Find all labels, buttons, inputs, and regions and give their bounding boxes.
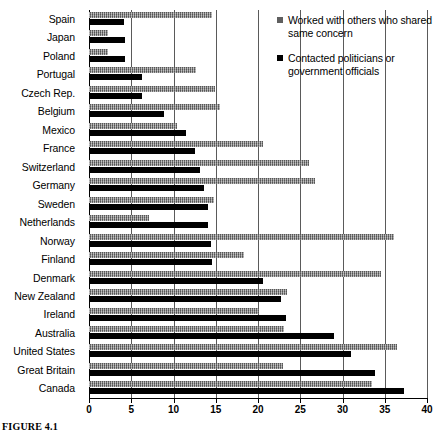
bar-contacted-politicians	[89, 388, 404, 394]
bar-contacted-politicians	[89, 222, 208, 228]
y-axis-label: Australia	[0, 324, 81, 342]
y-axis-label: Canada	[0, 379, 81, 397]
bar-contacted-politicians	[89, 148, 195, 154]
x-tick-mark	[131, 398, 132, 403]
square-marker-icon	[277, 17, 283, 23]
x-tick-label: 40	[421, 404, 432, 415]
x-tick-label: 25	[295, 404, 306, 415]
bar-row	[89, 158, 427, 176]
x-tick-label: 10	[168, 404, 179, 415]
figure-caption: FIGURE 4.1	[2, 421, 58, 432]
bar-contacted-politicians	[89, 351, 351, 357]
bar-contacted-politicians	[89, 93, 142, 99]
legend-label: Contacted politicians or government offi…	[288, 52, 442, 78]
bar-row	[89, 342, 427, 360]
legend-entry-contacted: Contacted politicians or government offi…	[277, 52, 442, 78]
legend-label: Worked with others who shared same conce…	[288, 14, 442, 40]
y-axis-label: Great Britain	[0, 361, 81, 379]
y-axis-label: Japan	[0, 28, 81, 46]
bar-contacted-politicians	[89, 315, 286, 321]
y-axis-label: Switzerland	[0, 158, 81, 176]
bar-contacted-politicians	[89, 167, 200, 173]
bar-contacted-politicians	[89, 130, 186, 136]
bar-worked-with-others	[89, 178, 315, 184]
bar-contacted-politicians	[89, 111, 164, 117]
bar-worked-with-others	[89, 363, 283, 369]
y-axis-label: Sweden	[0, 195, 81, 213]
y-axis-label: France	[0, 139, 81, 157]
bar-contacted-politicians	[89, 370, 375, 376]
bar-row	[89, 306, 427, 324]
bar-row	[89, 379, 427, 397]
bar-contacted-politicians	[89, 56, 125, 62]
bar-worked-with-others	[89, 67, 196, 73]
bar-worked-with-others	[89, 381, 372, 387]
y-axis-label: Finland	[0, 250, 81, 268]
bar-worked-with-others	[89, 252, 244, 258]
y-axis-label: United States	[0, 342, 81, 360]
y-axis-label: Mexico	[0, 121, 81, 139]
bar-worked-with-others	[89, 234, 394, 240]
x-tick-mark	[385, 398, 386, 403]
bar-worked-with-others	[89, 344, 397, 350]
x-tick-mark	[174, 398, 175, 403]
y-axis-label: Poland	[0, 47, 81, 65]
x-tick-label: 15	[210, 404, 221, 415]
bar-worked-with-others	[89, 86, 215, 92]
bar-row	[89, 176, 427, 194]
bar-contacted-politicians	[89, 19, 124, 25]
bar-worked-with-others	[89, 160, 309, 166]
bar-contacted-politicians	[89, 241, 211, 247]
x-tick-mark	[258, 398, 259, 403]
bar-worked-with-others	[89, 104, 220, 110]
bar-worked-with-others	[89, 289, 287, 295]
bar-row	[89, 213, 427, 231]
x-tick-mark	[343, 398, 344, 403]
bar-worked-with-others	[89, 215, 149, 221]
y-axis-label: Ireland	[0, 306, 81, 324]
y-axis-label: Norway	[0, 232, 81, 250]
bar-row	[89, 195, 427, 213]
bar-worked-with-others	[89, 326, 284, 332]
chart-legend: Worked with others who shared same conce…	[277, 14, 442, 90]
bar-row	[89, 324, 427, 342]
x-tick-label: 0	[86, 404, 92, 415]
x-tick-label: 20	[252, 404, 263, 415]
bar-row	[89, 232, 427, 250]
x-tick-label: 5	[128, 404, 134, 415]
bar-row	[89, 250, 427, 268]
bar-worked-with-others	[89, 197, 214, 203]
x-tick-label: 30	[337, 404, 348, 415]
x-tick-mark	[89, 398, 90, 403]
bar-contacted-politicians	[89, 333, 334, 339]
y-axis-label: Czech Rep.	[0, 84, 81, 102]
y-axis-label: New Zealand	[0, 287, 81, 305]
bar-row	[89, 269, 427, 287]
bar-contacted-politicians	[89, 296, 281, 302]
bar-contacted-politicians	[89, 204, 208, 210]
bar-worked-with-others	[89, 308, 259, 314]
bar-contacted-politicians	[89, 259, 212, 265]
y-axis-label: Belgium	[0, 102, 81, 120]
x-tick-label: 35	[379, 404, 390, 415]
bar-row	[89, 139, 427, 157]
square-marker-icon	[277, 55, 283, 61]
y-axis-label: Portugal	[0, 65, 81, 83]
x-tick-mark	[300, 398, 301, 403]
bar-contacted-politicians	[89, 37, 125, 43]
y-axis-label: Netherlands	[0, 213, 81, 231]
legend-entry-worked: Worked with others who shared same conce…	[277, 14, 442, 40]
bar-contacted-politicians	[89, 278, 263, 284]
x-tick-mark	[427, 398, 428, 403]
bar-worked-with-others	[89, 12, 212, 18]
y-axis-category-labels: SpainJapanPolandPortugalCzech Rep.Belgiu…	[0, 10, 81, 398]
bar-row	[89, 102, 427, 120]
bar-contacted-politicians	[89, 185, 204, 191]
x-axis-ticks: 0510152025303540	[89, 398, 427, 418]
bar-row	[89, 361, 427, 379]
bar-worked-with-others	[89, 49, 108, 55]
bar-contacted-politicians	[89, 74, 142, 80]
bar-worked-with-others	[89, 141, 263, 147]
y-axis-label: Germany	[0, 176, 81, 194]
x-tick-mark	[216, 398, 217, 403]
